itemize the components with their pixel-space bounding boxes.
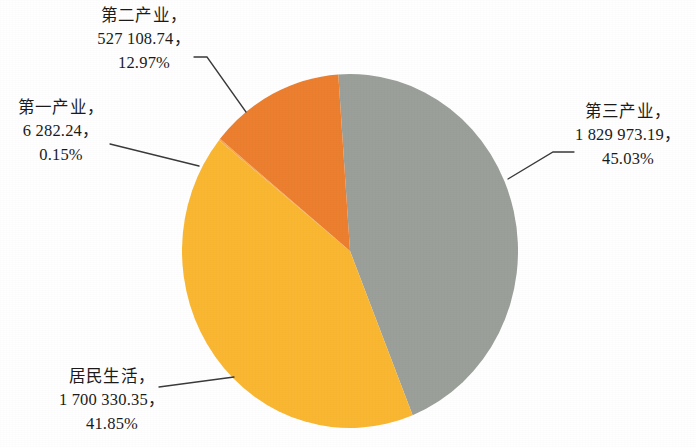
pie-slices xyxy=(182,74,518,428)
slice-label-primary: 第一产业， 6 282.24， 0.15% xyxy=(0,96,122,166)
slice-label-primary-value: 6 282.24， xyxy=(0,119,122,142)
slice-label-primary-percent: 0.15% xyxy=(0,143,122,166)
slice-label-tertiary-value: 1 829 973.19， xyxy=(560,123,696,146)
slice-label-secondary-percent: 12.97% xyxy=(54,51,234,74)
slice-label-tertiary: 第三产业， 1 829 973.19， 45.03% xyxy=(560,100,696,170)
leader-line-primary xyxy=(110,144,199,166)
slice-label-residential: 居民生活， 1 700 330.35， 41.85% xyxy=(22,365,202,435)
slice-label-secondary: 第二产业， 527 108.74， 12.97% xyxy=(54,4,234,74)
slice-label-residential-value: 1 700 330.35， xyxy=(22,388,202,411)
slice-label-tertiary-name: 第三产业， xyxy=(560,100,696,123)
slice-label-tertiary-percent: 45.03% xyxy=(560,147,696,170)
slice-label-secondary-value: 527 108.74， xyxy=(54,27,234,50)
slice-label-residential-percent: 41.85% xyxy=(22,412,202,435)
chart-plot-area: 第二产业， 527 108.74， 12.97% 第一产业， 6 282.24，… xyxy=(0,0,696,447)
slice-label-primary-name: 第一产业， xyxy=(0,96,122,119)
slice-label-residential-name: 居民生活， xyxy=(22,365,202,388)
pie-chart-figure: 第二产业， 527 108.74， 12.97% 第一产业， 6 282.24，… xyxy=(0,0,696,447)
slice-label-secondary-name: 第二产业， xyxy=(54,4,234,27)
